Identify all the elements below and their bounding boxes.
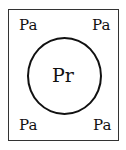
label-bottom-left: Pa [19,118,37,133]
label-center: Pr [52,66,74,85]
label-top-left: Pa [19,18,37,33]
label-bottom-right: Pa [93,118,111,133]
label-top-right: Pa [92,18,110,33]
